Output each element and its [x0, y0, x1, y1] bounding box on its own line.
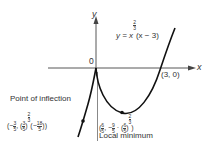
y-axis-label: y: [92, 10, 97, 19]
x-axis-label: x: [197, 63, 202, 72]
origin-label: 0: [89, 57, 94, 66]
intercept-label: (3, 0): [161, 71, 180, 79]
equation-suffix: (x − 3): [136, 31, 159, 40]
x-axis-arrow-icon: [188, 66, 196, 71]
equation-prefix: y = x: [116, 31, 133, 40]
curve-left-branch: [78, 68, 96, 137]
inflection-title: Point of inflection: [10, 95, 71, 103]
inflection-point: [81, 119, 85, 123]
equation-exponent: 23: [133, 20, 136, 31]
inflection-coordinates: (−35, (35)23(−185)): [7, 112, 47, 132]
local-min-title: Local minimum: [99, 132, 153, 140]
equation-label: y = x23(x − 3): [116, 20, 159, 40]
